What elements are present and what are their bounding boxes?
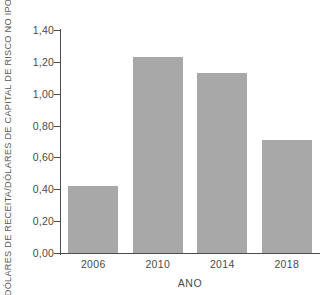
x-axis-tick-label: 2006 xyxy=(61,258,126,270)
y-axis-tick-label: 0,60 xyxy=(33,151,54,163)
y-axis-title: DÓLARES DE RECEITA/DÓLARES DE CAPITAL DE… xyxy=(0,0,16,295)
bar-2018 xyxy=(262,140,312,253)
bar-2006 xyxy=(68,186,118,253)
x-axis-title: ANO xyxy=(61,277,319,289)
x-axis-tick-label: 2018 xyxy=(255,258,320,270)
y-axis-tick-label: 0,40 xyxy=(33,183,54,195)
y-axis-tick-label: 1,20 xyxy=(33,56,54,68)
y-axis-tick-label: 1,00 xyxy=(33,88,54,100)
x-axis-tick-label: 2014 xyxy=(190,258,255,270)
plot-area xyxy=(61,30,319,253)
y-axis-tick-mark xyxy=(54,157,60,158)
y-axis-tick-label: 0,20 xyxy=(33,215,54,227)
bar-chart: DÓLARES DE RECEITA/DÓLARES DE CAPITAL DE… xyxy=(0,0,322,295)
y-axis-tick-mark xyxy=(54,253,60,254)
y-axis-tick-label: 0,80 xyxy=(33,120,54,132)
x-axis-line xyxy=(54,253,320,254)
y-axis-tick-mark xyxy=(54,30,60,31)
y-axis-tick-label: 0,00 xyxy=(33,247,54,259)
y-axis-tick-mark xyxy=(54,62,60,63)
bar-2010 xyxy=(133,57,183,253)
y-axis-tick-mark xyxy=(54,94,60,95)
y-axis-ticks: 0,000,200,400,600,801,001,201,40 xyxy=(18,30,54,253)
y-axis-tick-label: 1,40 xyxy=(33,24,54,36)
y-axis-tick-mark xyxy=(54,126,60,127)
y-axis-tick-mark xyxy=(54,221,60,222)
y-axis-tick-mark xyxy=(54,189,60,190)
x-axis-tick-label: 2010 xyxy=(126,258,191,270)
bar-2014 xyxy=(197,73,247,253)
